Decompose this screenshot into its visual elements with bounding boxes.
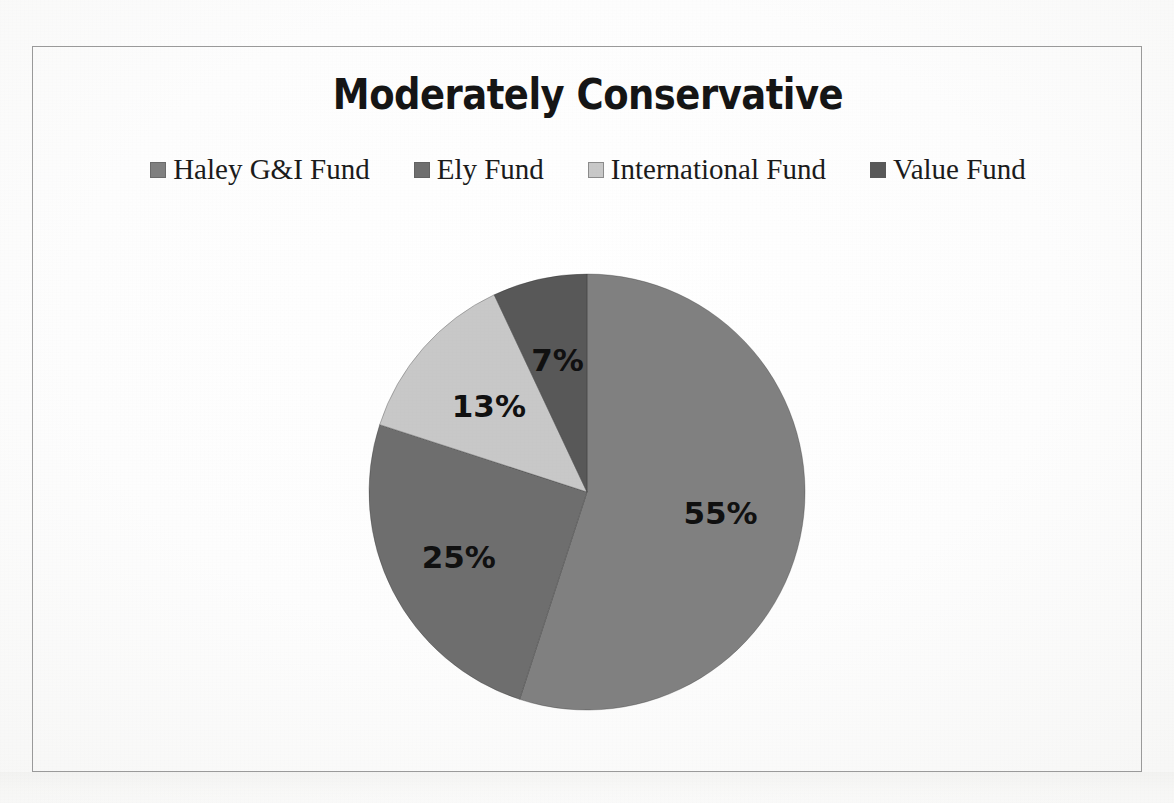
legend-swatch-icon: [588, 162, 604, 178]
legend-swatch-icon: [150, 162, 166, 178]
legend-swatch-icon: [870, 162, 886, 178]
pie-slice-group: [369, 274, 805, 710]
legend-item-haley-gi-fund[interactable]: Haley G&I Fund: [150, 155, 370, 184]
legend-swatch-icon: [414, 162, 430, 178]
legend-item-label: Haley G&I Fund: [173, 155, 370, 184]
pie-label-group: 55%25%13%7%: [422, 342, 758, 575]
scan-smudge: [0, 772, 1174, 803]
legend-item-label: Value Fund: [893, 155, 1026, 184]
legend-item-value-fund[interactable]: Value Fund: [870, 155, 1026, 184]
chart-legend: Haley G&I Fund Ely Fund International Fu…: [33, 155, 1143, 184]
pie-slice[interactable]: [520, 274, 805, 710]
pie-slice-label: 25%: [422, 539, 496, 575]
legend-item-international-fund[interactable]: International Fund: [588, 155, 826, 184]
pie-slice-label: 13%: [452, 388, 526, 424]
pie-slice[interactable]: [494, 274, 587, 492]
pie-slice[interactable]: [369, 425, 587, 700]
legend-item-label: International Fund: [611, 155, 826, 184]
pie-slice-label: 55%: [683, 495, 757, 531]
scanned-page: Moderately Conservative Haley G&I Fund E…: [0, 0, 1174, 803]
legend-item-ely-fund[interactable]: Ely Fund: [414, 155, 544, 184]
chart-frame: Moderately Conservative Haley G&I Fund E…: [32, 46, 1142, 772]
pie-slice[interactable]: [380, 295, 587, 492]
legend-item-label: Ely Fund: [437, 155, 544, 184]
pie-slice-label: 7%: [531, 342, 584, 378]
chart-title: Moderately Conservative: [111, 69, 1066, 119]
